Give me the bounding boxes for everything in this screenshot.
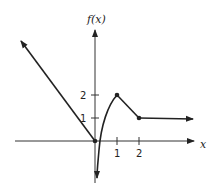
x-axis-label: x <box>200 138 207 151</box>
rising-curve <box>97 95 117 178</box>
tick-label-x1: 1 <box>114 148 120 159</box>
right-ray <box>139 118 193 119</box>
point-1-2 <box>115 93 120 98</box>
graph-canvas: 1 2 1 2 f(x) x <box>0 0 220 191</box>
y-axis-label: f(x) <box>86 13 106 26</box>
descending-segment <box>117 95 139 118</box>
tick-label-x2: 2 <box>136 148 142 159</box>
point-2-1 <box>137 116 142 121</box>
tick-label-y2: 2 <box>80 90 86 101</box>
function-graph: 1 2 1 2 f(x) x <box>0 0 220 191</box>
point-origin <box>93 139 98 144</box>
